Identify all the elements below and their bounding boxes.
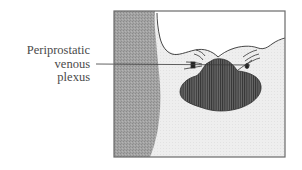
left-band — [114, 11, 160, 157]
anatomical-figure — [0, 0, 302, 170]
